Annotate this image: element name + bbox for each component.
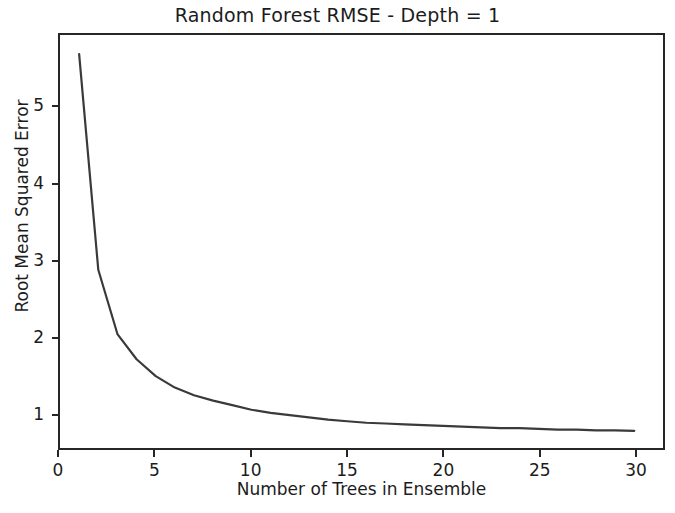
x-tick-mark [346, 450, 348, 457]
x-tick-mark [442, 450, 444, 457]
y-tick-mark [52, 260, 59, 262]
y-tick-label: 5 [0, 94, 44, 116]
x-tick-label: 0 [28, 459, 88, 481]
x-tick-mark [539, 450, 541, 457]
y-tick-mark [52, 105, 59, 107]
y-tick-label: 4 [0, 172, 44, 194]
x-tick-label: 5 [124, 459, 184, 481]
x-tick-mark [57, 450, 59, 457]
rmse-line-plot [60, 35, 663, 448]
x-tick-label: 20 [413, 459, 473, 481]
y-axis-label: Root Mean Squared Error [12, 0, 32, 416]
y-tick-label: 3 [0, 249, 44, 271]
x-axis-label: Number of Trees in Ensemble [58, 479, 665, 499]
x-tick-mark [250, 450, 252, 457]
rmse-curve [79, 54, 634, 431]
y-tick-mark [52, 414, 59, 416]
x-tick-mark [153, 450, 155, 457]
x-tick-label: 10 [221, 459, 281, 481]
x-tick-mark [635, 450, 637, 457]
plot-area [58, 33, 665, 450]
x-tick-label: 15 [317, 459, 377, 481]
chart-title: Random Forest RMSE - Depth = 1 [0, 4, 675, 26]
y-tick-label: 1 [0, 403, 44, 425]
x-tick-label: 25 [510, 459, 570, 481]
chart-figure: Random Forest RMSE - Depth = 1 Root Mean… [0, 0, 675, 513]
y-tick-label: 2 [0, 326, 44, 348]
y-tick-mark [52, 183, 59, 185]
x-tick-label: 30 [606, 459, 666, 481]
y-tick-mark [52, 337, 59, 339]
